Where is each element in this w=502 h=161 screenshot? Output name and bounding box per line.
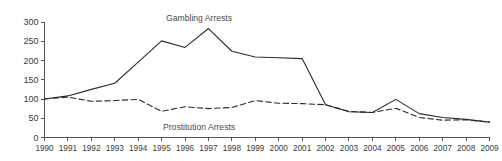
x-axis-tick-label: 1996 <box>176 144 195 153</box>
y-axis: 050100150200250300 <box>23 17 44 143</box>
chart-canvas: 050100150200250300 199019911992199319941… <box>0 0 502 161</box>
series-line-prostitution-arrests <box>45 97 490 122</box>
x-axis-tick-label: 1992 <box>82 144 101 153</box>
x-axis-tick-label: 1998 <box>223 144 242 153</box>
x-axis-tick-label: 2006 <box>410 144 429 153</box>
x-axis-tick-label: 2002 <box>316 144 335 153</box>
x-axis-tick-label: 2003 <box>340 144 359 153</box>
series-annotations: Gambling ArrestsProstitution Arrests <box>163 13 235 132</box>
data-series-group <box>45 29 490 123</box>
x-axis-tick-label: 2007 <box>434 144 453 153</box>
x-axis-tick-label: 2008 <box>457 144 476 153</box>
x-axis: 1990199119921993199419951996199719981999… <box>35 138 499 153</box>
y-axis-tick-label: 200 <box>23 56 38 66</box>
series-annotation-label: Prostitution Arrests <box>163 122 235 132</box>
x-axis-tick-label: 2001 <box>293 144 312 153</box>
line-chart-arrests-trend: 050100150200250300 199019911992199319941… <box>0 0 502 161</box>
x-axis-tick-label: 1990 <box>35 144 54 153</box>
y-axis-tick-label: 0 <box>33 133 38 143</box>
x-axis-tick-label: 1995 <box>152 144 171 153</box>
y-axis-tick-label: 250 <box>23 36 38 46</box>
y-axis-tick-label: 50 <box>28 113 38 123</box>
x-axis-tick-label: 2000 <box>270 144 289 153</box>
x-axis-tick-label: 1993 <box>106 144 125 153</box>
x-axis-tick-label: 2005 <box>387 144 406 153</box>
x-axis-tick-label: 1999 <box>246 144 265 153</box>
x-axis-tick-label: 2009 <box>480 144 499 153</box>
series-annotation-label: Gambling Arrests <box>166 13 232 23</box>
series-line-gambling-arrests <box>45 29 490 123</box>
x-axis-tick-label: 2004 <box>363 144 382 153</box>
y-axis-tick-label: 150 <box>23 75 38 85</box>
y-axis-tick-label: 100 <box>23 94 38 104</box>
x-axis-tick-label: 1991 <box>59 144 78 153</box>
x-axis-tick-label: 1994 <box>129 144 148 153</box>
x-axis-tick-label: 1997 <box>199 144 218 153</box>
y-axis-tick-label: 300 <box>23 17 38 27</box>
